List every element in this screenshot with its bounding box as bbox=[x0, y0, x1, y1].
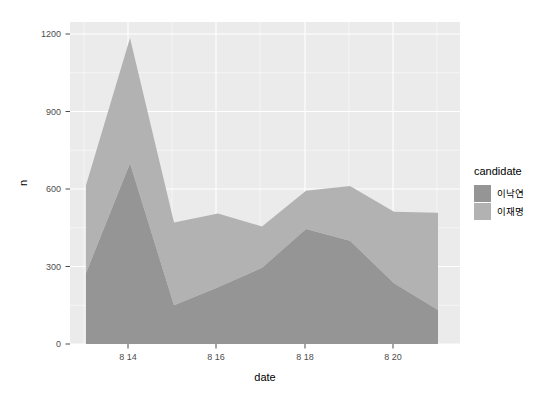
legend: candidate 이낙연 이재명 bbox=[474, 165, 524, 220]
y-tick-label-0: 0 bbox=[56, 339, 61, 349]
y-tick-label-900: 900 bbox=[46, 107, 61, 117]
legend-swatch-1 bbox=[474, 203, 491, 220]
x-tick-label-1: 8 16 bbox=[207, 352, 225, 362]
legend-label-0: 이낙연 bbox=[497, 188, 524, 199]
x-tick-label-3: 8 20 bbox=[384, 352, 402, 362]
x-tick-label-2: 8 18 bbox=[296, 352, 314, 362]
y-tick-label-300: 300 bbox=[46, 262, 61, 272]
area-chart: 0 300 600 900 1200 n 8 14 8 16 8 18 8 20… bbox=[0, 0, 549, 406]
x-axis-title: date bbox=[254, 371, 275, 383]
x-tick-label-0: 8 14 bbox=[119, 352, 137, 362]
legend-label-1: 이재명 bbox=[497, 206, 524, 217]
legend-swatch-0 bbox=[474, 185, 491, 202]
y-axis-title: n bbox=[17, 180, 29, 186]
chart-svg: 0 300 600 900 1200 n 8 14 8 16 8 18 8 20… bbox=[0, 0, 549, 406]
y-tick-label-1200: 1200 bbox=[41, 29, 61, 39]
legend-title: candidate bbox=[474, 165, 522, 177]
y-tick-label-600: 600 bbox=[46, 184, 61, 194]
